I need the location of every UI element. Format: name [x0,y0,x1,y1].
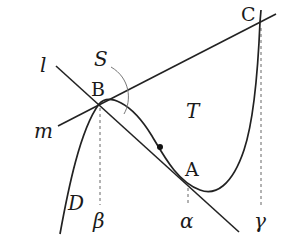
math-diagram: l m S B T C A D β α γ [0,0,294,251]
label-x-alpha: α [180,209,194,233]
label-point-b: B [91,78,105,100]
label-x-gamma: γ [254,209,266,233]
label-line-m: m [34,119,53,143]
label-region-s: S [94,47,108,71]
marked-point [157,144,163,150]
label-region-t: T [186,99,201,123]
label-line-l: l [40,53,46,77]
label-point-a: A [184,158,199,180]
line-m [58,14,276,126]
label-x-beta: β [92,209,105,233]
label-curve-d: D [67,191,84,215]
label-point-c: C [241,3,256,25]
curve-d [60,10,261,234]
